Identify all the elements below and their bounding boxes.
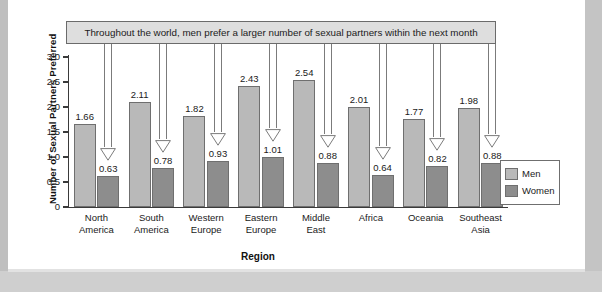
y-tick-label-row: 0.5 (8, 176, 68, 188)
y-tick-label: 0.5 (36, 176, 60, 187)
annotation-arrow (269, 44, 277, 141)
y-tick-label-row: 3.0 (8, 51, 68, 63)
arrow-shaft (269, 44, 277, 128)
bar-women (152, 168, 174, 207)
chart-body: Number of Sexual Partners Preferred 3.02… (8, 0, 585, 271)
bar-women (262, 157, 284, 208)
y-tick-label: 2.0 (36, 101, 60, 112)
arrow-head-icon (100, 147, 116, 160)
arrow-shaft (324, 44, 332, 134)
bar-value-men: 1.98 (452, 95, 486, 106)
bar-value-women: 0.88 (311, 150, 345, 161)
bar-value-men: 2.43 (232, 73, 266, 84)
y-tick-label-row: 1.0 (8, 151, 68, 163)
bar-women (97, 176, 119, 208)
y-tick-label: 2.5 (36, 76, 60, 87)
arrow-shaft (159, 44, 167, 139)
y-tick-label-row: 0 (8, 201, 68, 213)
plot-area: 1.660.632.110.781.820.932.431.012.540.88… (69, 57, 508, 207)
legend-swatch-women-icon (505, 185, 518, 197)
bar-value-women: 0.64 (366, 162, 400, 173)
bar-women (426, 166, 448, 207)
y-tick-label: 1.5 (36, 126, 60, 137)
y-tick-label: 1.0 (36, 151, 60, 162)
page-bottom-strip (0, 271, 602, 292)
bar-value-men: 2.54 (287, 67, 321, 78)
bar-value-women: 0.63 (91, 163, 125, 174)
legend-swatch-men-icon (505, 168, 518, 180)
annotation-arrow (324, 44, 332, 147)
y-tick-label-row: 1.5 (8, 126, 68, 138)
bar-value-men: 1.82 (177, 103, 211, 114)
annotation-arrow (488, 44, 496, 147)
bar-value-men: 1.77 (397, 106, 431, 117)
arrow-shaft (104, 44, 112, 147)
arrow-shaft (488, 44, 496, 134)
arrow-shaft (379, 44, 387, 146)
legend-label-women: Women (522, 185, 555, 196)
bar-value-women: 1.01 (256, 144, 290, 155)
arrow-shaft (433, 44, 441, 137)
y-tick-label: 3.0 (36, 51, 60, 62)
y-tick-label-row: 2.5 (8, 76, 68, 88)
arrow-shaft (214, 44, 222, 132)
arrow-head-icon (210, 132, 226, 145)
annotation-arrow (159, 44, 167, 152)
bar-value-women: 0.93 (201, 148, 235, 159)
x-axis-title: Region (8, 251, 508, 262)
bar-value-men: 2.11 (123, 89, 157, 100)
annotation-arrow (104, 44, 112, 160)
arrow-head-icon (155, 139, 171, 152)
legend-label-men: Men (522, 168, 540, 179)
arrow-head-icon (265, 128, 281, 141)
arrow-head-icon (484, 134, 500, 147)
arrow-head-icon (375, 146, 391, 159)
bar-men (348, 107, 370, 208)
annotation-arrow (214, 44, 222, 145)
arrow-head-icon (429, 137, 445, 150)
legend-item-men: Men (505, 165, 555, 182)
bar-value-men: 2.01 (342, 94, 376, 105)
arrow-head-icon (320, 134, 336, 147)
chart-legend: Men Women (500, 160, 560, 205)
x-tick-label: Southeast Asia (445, 212, 516, 235)
annotation-banner: Throughout the world, men prefer a large… (66, 21, 496, 44)
annotation-arrow (379, 44, 387, 159)
bar-value-women: 0.82 (420, 153, 454, 164)
bar-value-women: 0.78 (146, 155, 180, 166)
y-tick-label-row: 2.0 (8, 101, 68, 113)
chart-figure: Number of Sexual Partners Preferred 3.02… (0, 0, 602, 292)
bar-men (293, 80, 315, 207)
y-tick-label: 0 (36, 201, 60, 212)
legend-item-women: Women (505, 182, 555, 199)
bar-women (317, 163, 339, 207)
annotation-arrow (433, 44, 441, 150)
annotation-banner-text: Throughout the world, men prefer a large… (84, 27, 477, 38)
bar-value-men: 1.66 (68, 111, 102, 122)
bar-women (372, 175, 394, 207)
bar-women (207, 161, 229, 208)
bar-men (183, 116, 205, 207)
